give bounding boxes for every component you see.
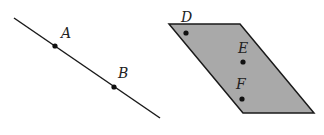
plane: D E F [169,9,314,113]
point-f [239,96,244,101]
geometry-diagram: A B D E F [0,0,324,135]
label-a: A [59,25,71,41]
label-d: D [180,9,192,25]
point-e [240,59,245,64]
point-a [52,43,57,48]
line-ab: A B [14,18,160,118]
label-b: B [117,65,128,81]
point-d [183,30,188,35]
line [14,18,160,118]
point-b [111,84,116,89]
label-f: F [235,76,247,92]
label-e: E [237,40,248,56]
